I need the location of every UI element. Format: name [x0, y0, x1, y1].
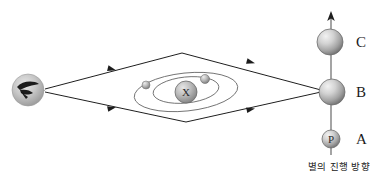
star-position-c [317, 29, 343, 55]
inner-orbit-body [201, 75, 210, 84]
parallax-diagram: X P [0, 0, 383, 181]
star-position-b [319, 79, 345, 105]
outer-orbit-body [142, 81, 150, 89]
ray-lower-right [186, 92, 321, 122]
figure-canvas: X P [0, 0, 383, 181]
motion-direction-caption: 별의 진행 방향 [308, 161, 370, 172]
star-position-a-glyph: P [328, 133, 334, 145]
ray-lower-left [45, 92, 186, 122]
position-label-c: C [356, 34, 366, 50]
central-sphere: X [175, 81, 197, 103]
ray-arrowhead-upper-right [246, 58, 256, 66]
star-position-a: P [322, 130, 340, 148]
central-sphere-glyph: X [182, 86, 190, 98]
position-label-a: A [356, 131, 367, 147]
position-label-b: B [356, 84, 366, 100]
observer-eye [12, 74, 44, 106]
ray-upper-right [182, 53, 321, 90]
